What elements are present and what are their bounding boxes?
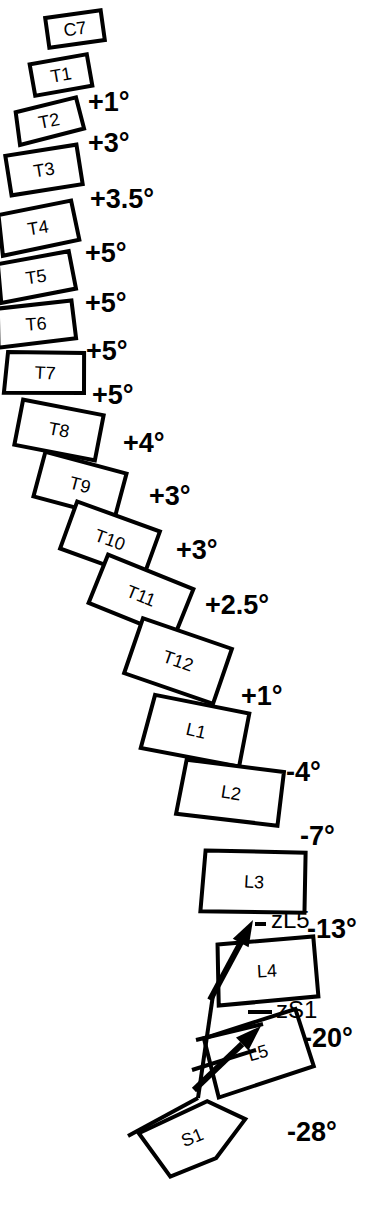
angle-label: +1°: [88, 87, 130, 117]
angle-label: +5°: [85, 288, 127, 318]
vertebra-label: L2: [220, 782, 243, 805]
angle-label: +3°: [88, 128, 130, 158]
angle-label: +4°: [123, 428, 165, 458]
vertebra-t5: T5: [0, 251, 77, 303]
angle-label: -4°: [286, 757, 321, 787]
angle-label: +5°: [85, 238, 127, 268]
angle-label: +3°: [149, 481, 191, 511]
vertebra-label: L3: [243, 871, 264, 892]
vertebra-t4: T4: [0, 200, 80, 256]
vertebra-t12: T12: [124, 618, 232, 703]
vertebra-l2: L2: [176, 756, 286, 829]
vertebra-s1: S1: [137, 1091, 254, 1182]
angle-label: +1°: [241, 681, 283, 711]
vertebra-t3: T3: [5, 145, 82, 196]
spine-diagram: C7T1T2T3T4T5T6T7T8T9T10T11T12L1L2L3L4L5S…: [0, 0, 383, 1207]
vertebra-label: T5: [24, 266, 48, 289]
vertebra-label: T8: [47, 418, 71, 442]
vertebra-label: T2: [37, 109, 61, 133]
vertebra-t1: T1: [30, 54, 93, 96]
vector-label: zL5: [271, 906, 310, 933]
angle-label: -28°: [287, 1117, 337, 1147]
vertebra-l1: L1: [141, 691, 251, 770]
vertebra-t8: T8: [14, 400, 103, 461]
vertebra-label: T3: [32, 158, 56, 181]
angle-label: +2.5°: [205, 590, 269, 620]
vector-label: zS1: [276, 996, 317, 1023]
vertebra-t7: T7: [4, 349, 86, 397]
angle-label: +5°: [86, 336, 128, 366]
angle-label: -13°: [307, 914, 357, 944]
vertebra-t2: T2: [13, 97, 85, 145]
vertebra-label: T1: [49, 63, 73, 86]
vertebra-label: T4: [26, 216, 50, 239]
vertebra-label: T7: [34, 362, 56, 383]
angle-label: +3.5°: [90, 184, 154, 214]
angle-label: -20°: [303, 1023, 353, 1053]
vertebra-t6: T6: [0, 300, 76, 347]
angle-label: +5°: [92, 380, 134, 410]
vertebra-c7: C7: [45, 10, 105, 48]
vertebra-label: T6: [25, 313, 47, 334]
angle-label: +3°: [176, 535, 218, 565]
vertebra-label: C7: [62, 17, 88, 40]
angle-label: -7°: [300, 821, 335, 851]
vertebra-label: L4: [256, 960, 277, 981]
vertebrae-layer: C7T1T2T3T4T5T6T7T8T9T10T11T12L1L2L3L4L5S…: [0, 10, 319, 1181]
